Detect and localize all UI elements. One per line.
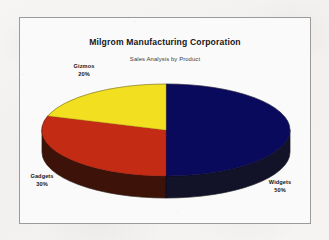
pie-label-gizmos: Gizmos 20% bbox=[63, 62, 105, 78]
pie-label-widgets: Widgets 50% bbox=[258, 178, 302, 194]
pie-label-gizmos-text: Gizmos bbox=[74, 63, 95, 69]
pie-label-widgets-text: Widgets bbox=[269, 179, 291, 185]
pie-chart-screenshot: Milgrom Manufacturing Corporation Sales … bbox=[0, 0, 329, 240]
pie-label-gadgets-text: Gadgets bbox=[30, 173, 53, 179]
pie-label-gadgets-percent: 30% bbox=[20, 180, 64, 188]
pie-label-gizmos-percent: 20% bbox=[63, 70, 105, 78]
pie-label-widgets-percent: 50% bbox=[258, 186, 302, 194]
pie-label-gadgets: Gadgets 30% bbox=[20, 172, 64, 188]
page-title: Milgrom Manufacturing Corporation bbox=[20, 37, 310, 47]
